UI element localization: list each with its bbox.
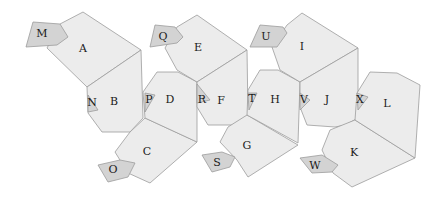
label-i: I — [300, 40, 304, 53]
label-w: W — [309, 159, 321, 172]
label-x: X — [356, 93, 364, 106]
label-t: T — [248, 92, 256, 105]
label-r: R — [198, 93, 207, 106]
label-s: S — [213, 156, 221, 169]
label-a: A — [78, 42, 88, 55]
label-o: O — [108, 163, 117, 176]
label-d: D — [166, 93, 175, 106]
label-j: J — [324, 93, 329, 106]
label-c: C — [143, 145, 151, 158]
polyhedron-net-diagram: AMBNCODPEQFRGSHTIUJVKWLX — [0, 0, 444, 201]
label-v: V — [299, 93, 309, 106]
label-q: Q — [158, 30, 167, 43]
label-e: E — [194, 41, 202, 54]
label-u: U — [261, 30, 270, 43]
label-f: F — [217, 94, 225, 107]
label-n: N — [87, 96, 97, 109]
label-h: H — [270, 93, 280, 106]
label-b: B — [110, 95, 118, 108]
label-k: K — [350, 146, 359, 159]
label-g: G — [243, 139, 252, 152]
label-m: M — [36, 27, 47, 40]
label-l: L — [383, 97, 391, 110]
label-p: P — [145, 93, 153, 106]
